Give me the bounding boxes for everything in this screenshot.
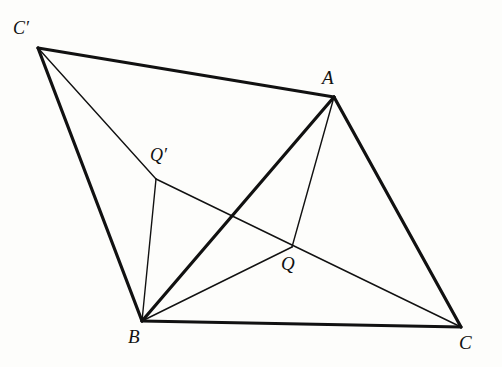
segment-c-prime-to-q-prime — [38, 48, 156, 179]
geometry-figure: ABCC′QQ′ — [0, 0, 502, 367]
segment-b-to-c — [142, 321, 461, 327]
figure-canvas — [0, 0, 502, 367]
vertex-label-cp: C′ — [13, 19, 29, 37]
vertex-label-a: A — [322, 68, 334, 87]
segment-a-to-c — [334, 97, 461, 327]
segments-layer — [38, 48, 461, 327]
vertex-label-c: C — [459, 333, 472, 352]
vertex-label-b: B — [128, 327, 140, 346]
segment-c-prime-to-b — [38, 48, 142, 321]
segment-b-to-q — [142, 247, 292, 321]
vertex-label-qp: Q′ — [150, 146, 167, 164]
segment-c-prime-to-a — [38, 48, 334, 97]
segment-b-to-a — [142, 97, 334, 321]
vertex-label-q: Q — [281, 254, 295, 273]
segment-q-prime-to-b — [142, 179, 156, 321]
